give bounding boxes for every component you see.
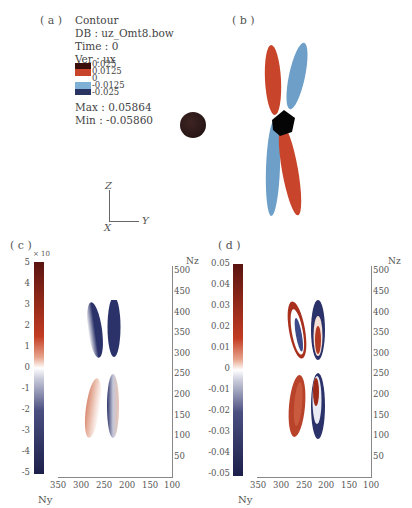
nz-tick: 400 — [373, 307, 389, 317]
cb-tick: -0.04 — [208, 447, 230, 457]
nz-tick: 100 — [373, 430, 389, 440]
info-time: Time : 0 — [75, 40, 174, 53]
panel-a-label: ( a ) — [40, 14, 62, 27]
nz-tick: 250 — [174, 368, 190, 378]
colorbar-d-ticks: 0.05 0.04 0.03 0.02 0.01 0 -0.01 -0.02 -… — [205, 258, 230, 480]
cb-tick: 0.04 — [211, 279, 230, 289]
ny-label-c: Ny — [38, 494, 52, 505]
cb-tick: 1 — [25, 341, 30, 351]
cb-tick: 0 — [25, 362, 30, 372]
min-value: Min : -0.05860 — [75, 114, 153, 127]
colorbar-exponent: × 10 — [33, 250, 50, 258]
ny-tick: 250 — [96, 480, 112, 490]
cb-tick: 4 — [25, 278, 30, 288]
ny-tick: 250 — [296, 480, 312, 490]
nz-tick: 450 — [174, 286, 190, 296]
cb-tick: 5 — [25, 257, 30, 267]
info-db: DB : uz_Omt8.bow — [75, 27, 174, 40]
nz-tick: 500 — [174, 265, 190, 275]
legend-swatch-dark-blue — [75, 89, 91, 95]
nz-tick: 150 — [174, 410, 190, 420]
colorbar-d — [233, 264, 243, 476]
nz-tick: 500 — [373, 265, 389, 275]
slice-plot-c — [80, 300, 130, 470]
cb-tick: 0 — [225, 363, 230, 373]
nz-tick: 50 — [373, 451, 384, 461]
ny-tick: 100 — [363, 480, 379, 490]
sphere-isosurface — [180, 112, 206, 138]
ny-tick: 300 — [273, 480, 289, 490]
cb-tick: -2 — [22, 404, 30, 414]
isosurface-3d — [260, 20, 320, 220]
nz-tick: 200 — [174, 389, 190, 399]
cb-tick: 3 — [25, 299, 30, 309]
ny-label-d: Ny — [238, 494, 252, 505]
nz-tick: 350 — [373, 327, 389, 337]
minmax: Max : 0.05864 Min : -0.05860 — [75, 101, 153, 127]
ny-tick: 150 — [142, 480, 158, 490]
ny-tick: 200 — [119, 480, 135, 490]
y-axis-label: Y — [142, 215, 149, 226]
nz-tick: 200 — [373, 389, 389, 399]
colorbar-c — [34, 262, 44, 474]
x-axis-label: X — [104, 222, 111, 233]
contour-legend — [75, 63, 91, 95]
nz-tick: 450 — [373, 286, 389, 296]
cb-tick: 2 — [25, 320, 30, 330]
ny-axis-c — [58, 477, 173, 478]
legend-level: -0.025 — [92, 89, 125, 96]
ny-tick: 100 — [164, 480, 180, 490]
legend-swatch-light-blue — [75, 82, 91, 89]
cb-tick: 0.05 — [211, 258, 230, 268]
nz-label-d: Nz — [388, 256, 401, 266]
ny-tick: 200 — [318, 480, 334, 490]
panel-c-label: ( c ) — [10, 239, 32, 252]
z-axis-line — [109, 190, 110, 222]
legend-swatch-red — [75, 69, 91, 76]
slice-plot-d — [285, 300, 335, 470]
cb-tick: -3 — [22, 425, 30, 435]
panel-b-label: ( b ) — [232, 14, 255, 27]
legend-labels: 0.025 0.0125 0 -0.0125 -0.025 — [92, 61, 125, 96]
colorbar-c-ticks: 5 4 3 2 1 0 -1 -2 -3 -4 -5 — [18, 257, 30, 479]
cb-tick: -1 — [22, 383, 30, 393]
cb-tick: -4 — [22, 446, 30, 456]
ny-tick: 300 — [73, 480, 89, 490]
cb-tick: -0.01 — [208, 384, 230, 394]
ny-tick: 350 — [250, 480, 266, 490]
nz-tick: 400 — [174, 307, 190, 317]
cb-tick: -0.05 — [208, 468, 230, 478]
cb-tick: -0.02 — [208, 405, 230, 415]
nz-axis-c — [172, 266, 173, 477]
nz-tick: 50 — [174, 451, 185, 461]
ny-tick: 350 — [50, 480, 66, 490]
ny-tick: 150 — [341, 480, 357, 490]
cb-tick: 0.02 — [211, 321, 230, 331]
nz-tick: 100 — [174, 430, 190, 440]
panel-a-info: Contour DB : uz_Omt8.bow Time : 0 Ver : … — [75, 14, 174, 66]
cb-tick: -0.03 — [208, 426, 230, 436]
nz-tick: 300 — [174, 348, 190, 358]
cb-tick: 0.01 — [211, 342, 230, 352]
z-axis-label: Z — [105, 180, 112, 191]
panel-d-label: ( d ) — [218, 239, 241, 252]
max-value: Max : 0.05864 — [75, 101, 153, 114]
nz-tick: 300 — [373, 348, 389, 358]
y-axis-line — [109, 221, 139, 222]
cb-tick: -5 — [22, 467, 30, 477]
nz-tick: 350 — [174, 327, 190, 337]
nz-axis-d — [371, 266, 372, 477]
ny-axis-d — [257, 477, 372, 478]
cb-tick: 0.03 — [211, 300, 230, 310]
info-title: Contour — [75, 14, 174, 27]
nz-tick: 150 — [373, 410, 389, 420]
nz-tick: 250 — [373, 368, 389, 378]
